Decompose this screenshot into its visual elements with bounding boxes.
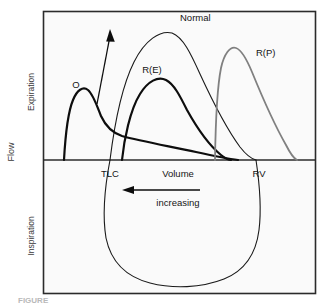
figure-root: Normal O R(E) R(P) TLC RV Volume increas… [0,0,325,305]
flow-volume-loop-chart: Normal O R(E) R(P) TLC RV Volume increas… [0,0,325,305]
label-restrictive-extrapulmonary: R(E) [142,64,162,75]
xaxis-title-volume: Volume [162,168,194,179]
figure-caption: FIGURE [18,296,49,305]
xaxis-title-increasing: increasing [156,197,199,208]
label-restrictive-parenchymal: R(P) [256,47,276,58]
label-obstructive: O [72,79,79,90]
yaxis-label-expiration: Expiration [26,73,36,111]
xtick-rv: RV [252,168,266,179]
yaxis-label-inspiration: Inspiration [26,216,36,255]
xtick-tlc: TLC [101,168,119,179]
label-normal: Normal [180,12,211,23]
yaxis-title-flow: Flow [6,142,16,162]
